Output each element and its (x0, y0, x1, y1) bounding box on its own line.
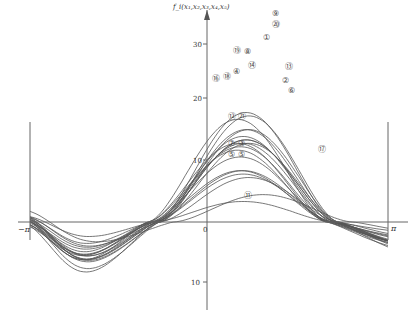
curve-label: ⑧ (244, 47, 251, 56)
curve-9 (30, 113, 388, 273)
y-tick-label-10: 10 (193, 157, 202, 165)
curve-13 (30, 137, 388, 257)
curve-12 (30, 157, 388, 254)
curve-17 (30, 195, 388, 242)
curve-15 (30, 143, 388, 261)
x-label-neg-pi: −π (18, 225, 31, 234)
curve-10 (30, 130, 388, 261)
curve-label: ⑫ (228, 112, 236, 121)
y-tick-label-20: 20 (193, 95, 202, 103)
curve-label: ⑲ (233, 46, 241, 55)
curve-5 (30, 178, 388, 247)
function-plot: f_i(x₁,x₂,x₃,x₄,x₅) 30 20 10 10 −π π 0 ⑨… (0, 0, 416, 326)
curve-label: ⑪ (244, 191, 252, 200)
curve-annotations: ⑨⑳①⑲⑧⑬⑭④②⑥⑯⑱⑫㉑⑦③⑤⑤⑰⑪ (212, 9, 326, 200)
y-axis-arrow-icon (204, 10, 210, 20)
curve-3 (30, 174, 388, 249)
curve-label: ⑯ (212, 74, 220, 83)
curve-18 (30, 143, 388, 260)
curve-label: ⑬ (285, 62, 293, 71)
curve-label: ⑰ (318, 145, 326, 154)
curve-label: ⑤ (238, 150, 245, 159)
y-axis-label: f_i(x₁,x₂,x₃,x₄,x₅) (172, 3, 230, 11)
x-label-zero: 0 (203, 226, 207, 234)
curve-label: ⑤ (228, 150, 235, 159)
curve-1 (30, 119, 388, 259)
curves-group (30, 113, 388, 273)
y-tick-label-30: 30 (193, 41, 202, 49)
curve-label: ⑥ (288, 86, 295, 95)
curve-label: ② (282, 76, 289, 85)
curve-label: ④ (233, 67, 240, 76)
curve-2 (30, 147, 388, 255)
curve-11 (30, 202, 388, 237)
y-tick-label-neg10: 10 (191, 279, 200, 287)
curve-label: ⑨ (272, 9, 279, 18)
curve-6 (30, 150, 388, 255)
curve-label: ⑦ (228, 139, 235, 148)
curve-label: ① (263, 33, 270, 42)
x-label-pi: π (390, 224, 397, 233)
curve-label: ③ (238, 139, 245, 148)
curve-label: ⑭ (248, 61, 256, 70)
curve-label: ⑳ (272, 20, 280, 29)
curve-label: ㉑ (238, 112, 246, 121)
curve-label: ⑱ (223, 72, 231, 81)
